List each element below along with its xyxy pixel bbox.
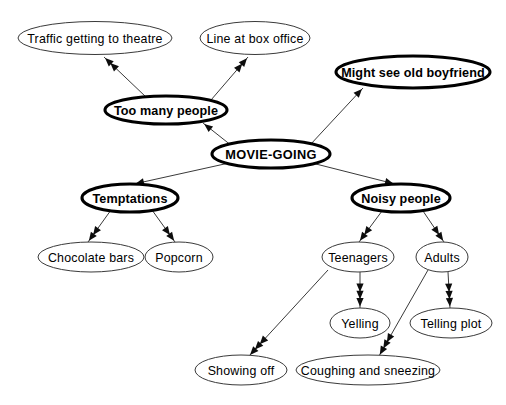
arrow-head-icon [431,226,439,235]
edge-line [134,163,229,184]
node-chocolate-bars[interactable]: Chocolate bars [38,242,144,272]
edge-movie-going-to-temptations [134,163,229,185]
node-yelling[interactable]: Yelling [330,308,390,338]
node-traffic[interactable]: Traffic getting to theatre [18,22,172,55]
node-label: Yelling [341,317,378,331]
node-teenagers[interactable]: Teenagers [322,242,394,272]
node-label: Adults [424,251,460,265]
node-label: Popcorn [155,251,203,265]
arrow-head-icon [162,226,170,235]
node-movie-going[interactable]: MOVIE-GOING [212,140,330,168]
edge-noisy-people-to-teenagers [359,211,382,242]
node-label: Coughing and sneezing [301,364,435,378]
edge-movie-going-to-noisy-people [312,163,395,185]
edge-teenagers-to-showing-off [249,270,328,356]
arrow-head-icon [387,333,394,342]
node-label: Too many people [114,104,218,118]
node-label: Noisy people [361,192,441,206]
node-coughing-sneezing[interactable]: Coughing and sneezing [296,355,440,385]
node-old-boyfriend[interactable]: Might see old boyfriend [336,56,490,88]
arrow-head-icon [364,226,372,235]
node-label: Might see old boyfriend [341,66,485,80]
node-line-box-office[interactable]: Line at box office [200,22,310,55]
edge-line [310,88,363,145]
node-label: Temptations [92,192,167,206]
nodes-layer: Traffic getting to theatreLine at box of… [18,22,492,386]
node-label: Traffic getting to theatre [27,32,162,46]
edge-line [312,163,395,184]
node-noisy-people[interactable]: Noisy people [352,184,450,212]
arrow-head-icon [204,124,213,132]
node-popcorn[interactable]: Popcorn [145,242,213,272]
node-label: Telling plot [421,317,482,331]
arrow-head-icon [383,339,390,348]
edge-too-many-people-to-traffic [104,57,146,97]
node-label: Chocolate bars [48,251,134,265]
node-label: Line at box office [206,32,303,46]
node-adults[interactable]: Adults [416,242,468,272]
concept-map-diagram: Traffic getting to theatreLine at box of… [0,0,506,405]
edge-noisy-people-to-adults [423,211,444,242]
edge-too-many-people-to-line-box-office [211,57,248,100]
node-label: Teenagers [328,251,388,265]
node-temptations[interactable]: Temptations [82,184,178,212]
node-too-many-people[interactable]: Too many people [105,96,227,124]
edge-adults-to-telling-plot [445,272,453,308]
arrow-head-icon [93,226,101,235]
arrow-head-icon [380,346,387,355]
node-showing-off[interactable]: Showing off [195,355,287,385]
edge-teenagers-to-yelling [356,272,363,308]
concept-map-canvas: Traffic getting to theatreLine at box of… [0,0,506,405]
edge-temptations-to-popcorn [152,210,175,242]
node-label: MOVIE-GOING [225,147,316,162]
node-telling-plot[interactable]: Telling plot [410,308,492,338]
edge-temptations-to-chocolate-bars [88,210,111,242]
edge-movie-going-to-too-many-people [203,123,232,146]
node-label: Showing off [208,364,275,378]
edge-movie-going-to-old-boyfriend [310,88,363,145]
